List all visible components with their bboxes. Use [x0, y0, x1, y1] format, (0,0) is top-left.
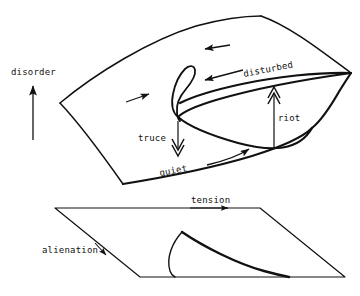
diagram-canvas: disorder disturbed truce riot quiet tens…: [0, 0, 360, 296]
surface-edge-right-lower: [312, 73, 351, 128]
flow-arrow-group: [126, 45, 249, 165]
label-tension: tension: [191, 195, 230, 205]
upper-sheet-arrow-right: [126, 94, 149, 102]
surface-edge-left: [60, 103, 123, 184]
label-disorder: disorder: [11, 67, 56, 77]
label-alienation: alienation: [42, 245, 98, 255]
label-riot: riot: [278, 113, 300, 123]
cusp-catastrophe-figure: disorder disturbed truce riot quiet tens…: [0, 0, 360, 296]
label-truce: truce: [138, 133, 166, 143]
cusp-branch-right: [182, 232, 289, 277]
cusp-branch-left: [169, 232, 182, 277]
behaviour-surface: [60, 16, 351, 184]
bifurcation-set: [169, 232, 289, 277]
surface-edge-top: [60, 16, 261, 103]
disturbed-pointer-arrow: [205, 70, 243, 80]
truce-transition-group: [172, 121, 184, 156]
upper-sheet-arrow-left: [205, 45, 230, 49]
